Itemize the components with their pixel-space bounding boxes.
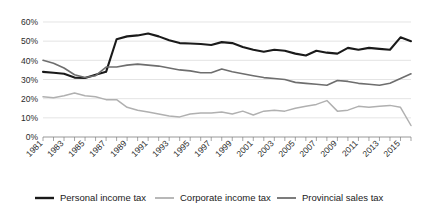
y-axis-tick-label: 10% <box>21 113 38 123</box>
legend-label-0: Personal income tax <box>60 192 146 203</box>
legend-label-2: Provincial sales tax <box>302 192 384 203</box>
y-axis-tick-label: 60% <box>21 17 38 27</box>
y-axis-tick-label: 30% <box>21 75 38 85</box>
chart-background <box>0 0 425 217</box>
line-chart: 60%50%40%30%20%10%0% 1981198319851987198… <box>0 0 425 217</box>
chart-legend: Personal income taxCorporate income taxP… <box>35 192 384 203</box>
y-axis-tick-label: 20% <box>21 94 38 104</box>
legend-label-1: Corporate income tax <box>180 192 271 203</box>
y-axis-tick-label: 40% <box>21 56 38 66</box>
y-axis-tick-label: 50% <box>21 36 38 46</box>
